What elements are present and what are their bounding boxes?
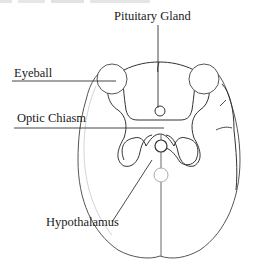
brain-diagram — [0, 0, 255, 269]
mammillary-circle-faint — [154, 168, 168, 182]
label-eyeball: Eyeball — [14, 67, 52, 80]
label-optic-chiasm: Optic Chiasm — [17, 112, 86, 125]
brain-outline — [78, 66, 240, 258]
hypothalamus-leader-line — [112, 160, 152, 222]
right-sulcus-1 — [220, 100, 226, 106]
right-outer-gyrus — [222, 84, 237, 190]
right-eyeball — [189, 64, 219, 94]
label-pituitary-gland: Pituitary Gland — [114, 10, 191, 23]
label-hypothalamus: Hypothalamus — [46, 216, 119, 229]
mammillary-circle-dark — [155, 140, 167, 152]
pituitary-circle — [155, 106, 165, 116]
right-sulcus-2 — [216, 127, 232, 130]
left-eyeball — [97, 64, 127, 94]
